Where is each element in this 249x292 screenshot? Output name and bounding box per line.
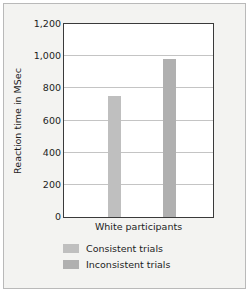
y-axis-tick-label: 1,200 [19,19,61,29]
legend-label: Inconsistent trials [86,259,170,270]
legend-item: Consistent trials [63,242,223,255]
chart-figure: Reaction time in MSec 02004006008001,000… [3,3,246,289]
y-axis-tick-label: 200 [19,180,61,190]
legend-swatch [63,260,79,269]
legend-swatch [63,244,79,253]
y-axis-tick-label: 400 [19,148,61,158]
y-axis-tick-label: 1,000 [19,51,61,61]
y-axis-tick-label: 600 [19,116,61,126]
legend: Consistent trialsInconsistent trials [63,242,223,274]
legend-item: Inconsistent trials [63,258,223,271]
bar [163,59,176,217]
bar [108,96,121,217]
bar-group [64,24,213,217]
plot-area [63,23,214,218]
legend-label: Consistent trials [86,243,163,254]
y-axis-tick-label: 800 [19,83,61,93]
y-axis-tick-label: 0 [19,212,61,222]
y-axis-tick-labels: 02004006008001,0001,200 [15,23,61,218]
x-axis-category-label: White participants [63,221,214,232]
